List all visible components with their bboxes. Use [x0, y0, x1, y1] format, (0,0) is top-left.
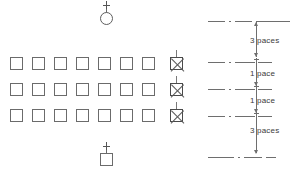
- open-square: [10, 109, 23, 122]
- open-square: [142, 83, 155, 96]
- open-square: [32, 83, 45, 96]
- scale-label-2: 1 pace: [250, 69, 275, 78]
- marked-square-tick: [176, 102, 177, 109]
- open-square: [76, 83, 89, 96]
- open-square: [120, 109, 133, 122]
- open-square: [98, 57, 111, 70]
- cross-diagonal-2: [171, 58, 182, 69]
- open-square: [10, 83, 23, 96]
- open-square: [10, 57, 23, 70]
- scale-label-1: 3 paces: [250, 36, 279, 45]
- open-square: [32, 57, 45, 70]
- crossed-square: [170, 83, 183, 96]
- formation-figure: 3 paces 1 pace 1: [0, 0, 293, 171]
- marked-square-tick: [176, 50, 177, 57]
- leader-square-icon: [100, 153, 113, 166]
- open-square: [142, 57, 155, 70]
- open-square: [76, 109, 89, 122]
- open-square: [142, 109, 155, 122]
- open-square: [54, 57, 67, 70]
- open-square: [98, 83, 111, 96]
- cross-diagonal-2: [171, 84, 182, 95]
- open-square: [54, 83, 67, 96]
- open-square: [76, 57, 89, 70]
- open-square: [120, 83, 133, 96]
- circle-icon: [100, 12, 113, 25]
- open-square: [54, 109, 67, 122]
- open-square: [120, 57, 133, 70]
- cross-diagonal-2: [171, 110, 182, 121]
- open-square: [98, 109, 111, 122]
- crossed-square: [170, 109, 183, 122]
- scale-label-3: 1 pace: [250, 96, 275, 105]
- open-square: [32, 109, 45, 122]
- crossed-square: [170, 57, 183, 70]
- marked-square-tick: [176, 76, 177, 83]
- scale-label-4: 3 paces: [250, 126, 279, 135]
